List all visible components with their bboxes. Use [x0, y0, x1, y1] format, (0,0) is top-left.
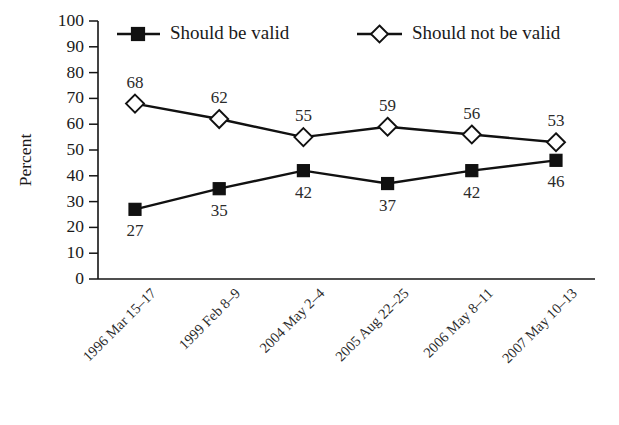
x-category-label-1: 1999 Feb 8–9 [176, 285, 244, 353]
data-point-should-not-be-valid-0[interactable] [126, 95, 144, 113]
x-category-label-2: 2004 May 2–4 [256, 284, 328, 356]
data-point-should-be-valid-4[interactable] [466, 165, 478, 177]
data-point-should-not-be-valid-4[interactable] [463, 126, 481, 144]
open-diamond-icon [371, 26, 388, 43]
data-point-should-be-valid-5[interactable] [550, 154, 562, 166]
data-label-should-be-valid-3: 37 [379, 196, 397, 215]
x-category-label-0: 1996 Mar 15–17 [79, 285, 159, 365]
x-category-label-4: 2006 May 8–11 [420, 285, 496, 361]
data-point-should-be-valid-0[interactable] [129, 203, 141, 215]
data-label-group: 273542374246686255595653 [127, 73, 565, 241]
chart-container: Percent 0102030405060708090100 273542374… [0, 0, 619, 425]
data-label-should-be-valid-5: 46 [548, 172, 565, 191]
y-tick-label-50: 50 [67, 139, 85, 159]
y-tick-label-70: 70 [67, 87, 85, 107]
data-point-should-not-be-valid-3[interactable] [379, 118, 397, 136]
legend-item-should-not-be-valid[interactable]: Should not be valid [357, 22, 561, 43]
y-tick-label-80: 80 [67, 62, 85, 82]
data-label-should-be-valid-0: 27 [127, 221, 145, 240]
data-label-should-not-be-valid-0: 68 [127, 73, 144, 92]
data-label-should-be-valid-1: 35 [211, 201, 228, 220]
x-category-label-5: 2007 May 10–13 [499, 285, 580, 366]
data-label-should-not-be-valid-5: 53 [548, 111, 565, 130]
data-label-should-not-be-valid-3: 59 [379, 96, 396, 115]
series-line-should-not-be-valid [135, 104, 556, 143]
legend-label-should-not-be-valid: Should not be valid [412, 22, 561, 43]
legend-label-should-be-valid: Should be valid [170, 22, 290, 43]
data-label-should-not-be-valid-1: 62 [211, 88, 228, 107]
y-axis: 0102030405060708090100 [58, 10, 98, 288]
data-point-should-be-valid-3[interactable] [382, 178, 394, 190]
data-point-should-be-valid-2[interactable] [297, 165, 309, 177]
data-label-should-be-valid-4: 42 [463, 183, 480, 202]
y-tick-label-100: 100 [58, 10, 85, 30]
legend-item-should-be-valid[interactable]: Should be valid [117, 22, 290, 43]
filled-square-icon [132, 28, 145, 41]
y-axis-title-text: Percent [15, 134, 35, 187]
data-point-should-not-be-valid-1[interactable] [210, 110, 228, 128]
x-category-label-group: 1996 Mar 15–171999 Feb 8–92004 May 2–420… [79, 284, 580, 366]
y-tick-label-20: 20 [67, 216, 85, 236]
data-point-should-not-be-valid-5[interactable] [547, 133, 565, 151]
series-line-should-be-valid [135, 160, 556, 209]
legend: Should be valid Should not be valid [117, 22, 561, 43]
y-tick-group: 0102030405060708090100 [58, 10, 98, 288]
y-axis-title: Percent [15, 134, 35, 187]
y-tick-label-10: 10 [67, 242, 85, 262]
series-group [126, 95, 565, 216]
x-category-label-3: 2005 Aug 22–25 [332, 285, 412, 365]
data-label-should-be-valid-2: 42 [295, 183, 312, 202]
data-point-should-not-be-valid-2[interactable] [294, 128, 312, 146]
line-chart: Percent 0102030405060708090100 273542374… [0, 0, 619, 425]
data-point-should-be-valid-1[interactable] [213, 183, 225, 195]
y-tick-label-40: 40 [67, 165, 85, 185]
data-label-should-not-be-valid-2: 55 [295, 106, 312, 125]
y-tick-label-30: 30 [67, 191, 85, 211]
data-label-should-not-be-valid-4: 56 [463, 104, 480, 123]
y-tick-label-0: 0 [75, 268, 84, 288]
y-tick-label-60: 60 [67, 113, 85, 133]
y-tick-label-90: 90 [67, 36, 85, 56]
